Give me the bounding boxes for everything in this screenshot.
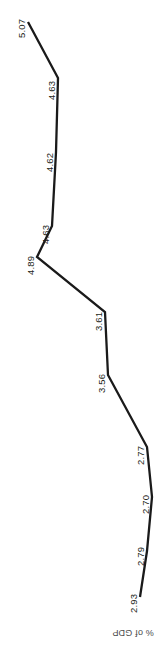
- data-point-label: 2.70: [140, 495, 151, 514]
- y-axis-label: % of GDP: [103, 628, 163, 638]
- data-point-label: 2.93: [128, 594, 139, 613]
- line-chart: 5.074.634.624.634.893.613.562.772.702.79…: [0, 0, 167, 651]
- data-point-label: 4.62: [44, 153, 55, 172]
- data-point-label: 3.56: [96, 374, 107, 393]
- data-point-label: 4.89: [25, 256, 36, 275]
- data-point-label: 2.77: [135, 446, 146, 465]
- data-point-label: 5.07: [16, 19, 27, 38]
- data-point-label: 3.61: [93, 312, 104, 331]
- data-point-label: 4.63: [46, 81, 57, 100]
- data-point-label: 2.79: [135, 547, 146, 566]
- data-point-label: 4.63: [40, 225, 51, 244]
- data-series-line: [28, 22, 152, 597]
